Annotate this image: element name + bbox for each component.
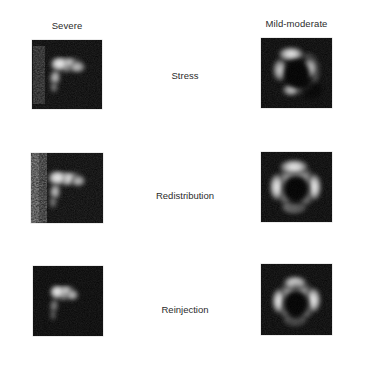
spect-figure: Severe Mild-moderate Stress Redistributi… — [0, 0, 371, 371]
row-label-stress: Stress — [120, 70, 250, 81]
column-header-mild-moderate: Mild-moderate — [261, 18, 332, 29]
row-label-redistribution: Redistribution — [120, 190, 250, 201]
panel-mild-moderate-reinjection — [261, 264, 332, 335]
panel-severe-redistribution — [31, 153, 103, 223]
panel-severe-reinjection — [33, 266, 103, 336]
panel-severe-stress — [32, 40, 102, 109]
panel-mild-moderate-stress — [261, 38, 332, 108]
column-header-severe: Severe — [32, 20, 102, 31]
row-label-reinjection: Reinjection — [120, 304, 250, 315]
panel-mild-moderate-redistribution — [261, 152, 332, 222]
